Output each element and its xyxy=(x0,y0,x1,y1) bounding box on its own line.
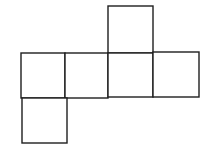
cube-face-row-3 xyxy=(108,53,153,97)
cube-face-top xyxy=(108,6,153,53)
cube-face-bottom xyxy=(22,98,67,143)
cube-face-row-4 xyxy=(153,52,199,97)
cube-net-svg xyxy=(0,0,211,151)
cube-net-diagram xyxy=(0,0,211,151)
cube-face-row-2 xyxy=(65,53,108,98)
cube-face-row-1 xyxy=(21,53,65,98)
